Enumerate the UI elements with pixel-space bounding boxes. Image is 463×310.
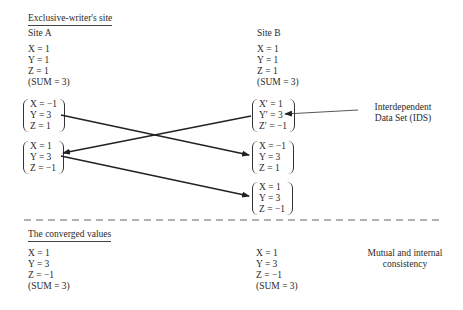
- converged-site-a: X = 1 Y = 3 Z = −1 (SUM = 3): [28, 248, 70, 292]
- arrow-ids-label: [285, 110, 358, 114]
- converged-heading: The converged values: [28, 229, 111, 242]
- converged-site-b: X = 1 Y = 3 Z = −1 (SUM = 3): [256, 248, 298, 292]
- arrow-a2-to-b3: [61, 156, 249, 196]
- consistency-note: Mutual and internal consistency: [355, 248, 455, 270]
